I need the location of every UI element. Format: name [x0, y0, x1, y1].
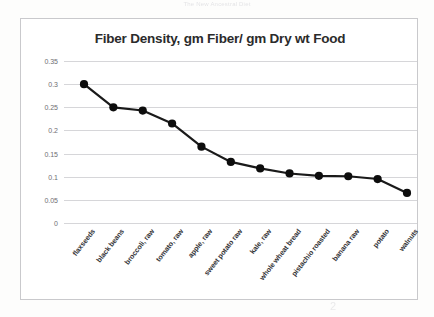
x-axis-category-labels: flaxseedsblack beansbroccoli, rawtomato,… [64, 227, 417, 301]
x-axis-label-banana-raw: banana raw [331, 227, 362, 263]
chart-frame: Fiber Density, gm Fiber/ gm Dry wt Food … [20, 18, 418, 300]
x-axis-label-tomato-raw: tomato, raw [154, 227, 185, 263]
y-axis-tick-label: 0.1 [48, 173, 58, 180]
y-axis-tick-label: 0.35 [44, 58, 58, 65]
x-axis-label-kale-raw: kale, raw [248, 227, 273, 256]
plot-area: 0.350.30.250.20.150.10.050 [64, 61, 417, 223]
y-axis-tick-label: 0 [54, 220, 58, 227]
fiber-density-series [64, 61, 417, 223]
data-point-marker[interactable] [227, 158, 235, 166]
y-axis-tick-label: 0.15 [44, 150, 58, 157]
x-axis-label-flaxseeds: flaxseeds [70, 227, 97, 258]
y-axis-tick-label: 0.05 [44, 196, 58, 203]
series-line [84, 84, 407, 193]
x-axis-label-apple-raw: apple, raw [186, 227, 214, 259]
y-axis-tick-label: 0.3 [48, 81, 58, 88]
chart-title: Fiber Density, gm Fiber/ gm Dry wt Food [21, 31, 419, 46]
data-point-marker[interactable] [168, 119, 176, 127]
slide-header-text: The New Ancestral Diet [0, 0, 434, 10]
x-axis-label-broccoli-raw: broccoli, raw [122, 227, 156, 266]
gridline: 0 [64, 223, 417, 224]
x-axis-label-walnuts: walnuts [397, 227, 420, 253]
y-axis-tick-label: 0.25 [44, 104, 58, 111]
y-axis-tick-label: 0.2 [48, 127, 58, 134]
x-axis-label-potato: potato [370, 227, 390, 249]
data-point-marker[interactable] [374, 175, 382, 183]
data-point-marker[interactable] [139, 106, 147, 114]
x-axis-label-black-beans: black beans [95, 227, 127, 264]
data-point-marker[interactable] [315, 172, 323, 180]
data-point-marker[interactable] [109, 103, 117, 111]
data-point-marker[interactable] [285, 169, 293, 177]
data-point-marker[interactable] [403, 189, 411, 197]
data-point-marker[interactable] [197, 143, 205, 151]
data-point-marker[interactable] [80, 80, 88, 88]
scan-artifact: 2 [330, 300, 356, 314]
data-point-marker[interactable] [256, 164, 264, 172]
data-point-marker[interactable] [344, 172, 352, 180]
